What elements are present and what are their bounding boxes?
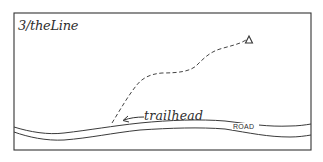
triangle-summit-icon	[246, 36, 253, 43]
road-lower-edge	[14, 128, 311, 140]
trail-sketch-diagram: 3/theLine ROAD trailhead	[0, 0, 323, 162]
trailhead-arrow-icon	[123, 116, 144, 122]
trailhead-label: trailhead	[144, 108, 203, 123]
diagram-title: 3/theLine	[18, 18, 79, 33]
diagram-frame	[14, 13, 311, 150]
road-label: ROAD	[233, 123, 254, 130]
